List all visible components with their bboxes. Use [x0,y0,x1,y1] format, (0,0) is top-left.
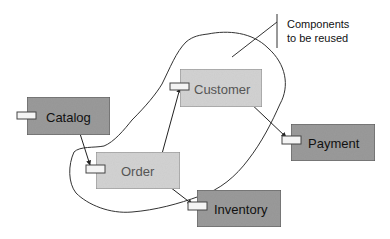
component-label: Inventory [214,202,268,217]
callout-text: Components to be reused [287,18,352,44]
component-diagram: Components to be reused Catalog Customer… [0,0,390,239]
component-order[interactable]: Order [86,152,180,189]
port-icon [282,136,301,144]
port-icon [86,165,105,173]
callout-line-1: Components [287,18,350,30]
port-icon [17,112,36,119]
component-customer[interactable]: Customer [170,69,262,107]
callout-line-2: to be reused [287,32,348,44]
port-icon [188,202,207,210]
component-label: Payment [308,136,360,151]
component-catalog[interactable]: Catalog [17,97,110,135]
component-label: Customer [194,82,251,97]
component-label: Catalog [46,110,91,125]
callout-leader [232,22,277,57]
port-icon [170,83,189,90]
component-payment[interactable]: Payment [282,124,375,161]
component-inventory[interactable]: Inventory [188,190,281,227]
component-label: Order [121,164,155,179]
